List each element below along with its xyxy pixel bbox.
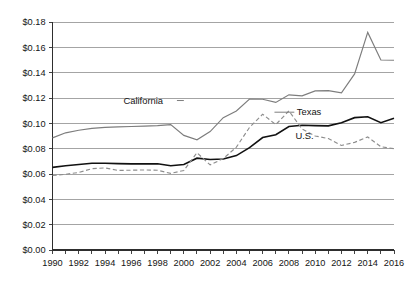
x-axis-tick-label: 1998 [147,258,167,268]
x-axis-tick-label: 2016 [384,258,404,268]
x-axis-tick-label: 1996 [121,258,141,268]
x-axis-tick-label: 1990 [42,258,62,268]
y-axis-tick-label: $0.16 [23,43,46,53]
x-axis-tick-label: 1994 [95,258,115,268]
y-axis-tick-label: $0.00 [23,245,46,255]
x-axis-tick-label: 1992 [69,258,89,268]
x-axis-tick-label: 2006 [252,258,272,268]
series-annotation-california: California [123,95,163,106]
y-axis-tick-label: $0.12 [23,93,46,103]
x-axis-tick-label: 2014 [358,258,378,268]
y-axis-tick-label: $0.10 [23,119,46,129]
x-tick-labels-group: 1990199219941996199820002002200420062008… [42,258,404,268]
series-annotation-u-s: U.S. [295,130,313,141]
y-axis-tick-label: $0.18 [23,17,46,27]
x-axis-tick-label: 2004 [226,258,246,268]
y-tick-labels-group: $0.00$0.02$0.04$0.06$0.08$0.10$0.12$0.14… [23,17,46,255]
axis-group [49,22,395,255]
series-annotation-texas: Texas [297,106,322,117]
gridlines-group [53,22,395,250]
series-group [53,32,395,175]
y-axis-tick-label: $0.04 [23,195,46,205]
x-axis-tick-label: 2002 [200,258,220,268]
x-axis-tick-label: 2008 [279,258,299,268]
x-axis-tick-label: 2010 [305,258,325,268]
y-axis-tick-label: $0.02 [23,220,46,230]
series-line-texas [53,111,395,176]
y-axis-tick-label: $0.06 [23,169,46,179]
series-line-u-s [53,117,395,168]
line-chart: CaliforniaTexasU.S. $0.00$0.02$0.04$0.06… [0,0,414,287]
y-axis-tick-label: $0.08 [23,144,46,154]
x-axis-tick-label: 2000 [174,258,194,268]
x-axis-tick-label: 2012 [331,258,351,268]
chart-canvas: CaliforniaTexasU.S. $0.00$0.02$0.04$0.06… [0,0,414,287]
y-axis-tick-label: $0.14 [23,68,46,78]
